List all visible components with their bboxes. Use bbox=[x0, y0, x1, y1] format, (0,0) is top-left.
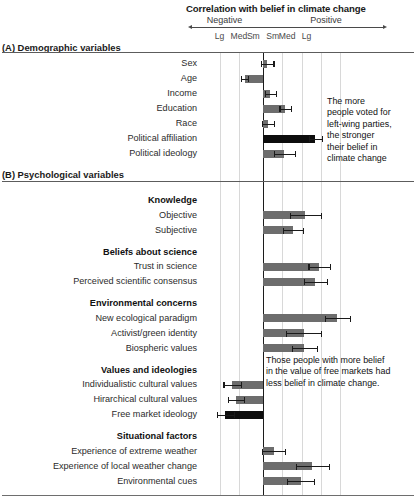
section-rule-a bbox=[2, 52, 414, 53]
error-bar bbox=[265, 94, 276, 95]
error-bar-cap-low bbox=[265, 91, 266, 97]
error-bar-cap-high bbox=[248, 76, 249, 82]
error-bar-cap-low bbox=[296, 464, 297, 470]
error-bar bbox=[283, 230, 302, 231]
row-label: Perceived scientific consensus bbox=[73, 276, 197, 287]
row-label: Individualistic cultural values bbox=[82, 379, 197, 390]
direction-label-positive: Positive bbox=[263, 15, 389, 25]
arrow-left-icon bbox=[188, 25, 192, 29]
group-heading: Environmental concerns bbox=[90, 298, 197, 309]
axis-tick-5: Lg bbox=[293, 31, 319, 41]
error-bar-cap-high bbox=[321, 213, 322, 219]
group-heading: Knowledge bbox=[148, 195, 197, 206]
error-bar-cap-low bbox=[223, 382, 224, 388]
row-label: Biospheric values bbox=[126, 343, 197, 354]
error-bar-cap-high bbox=[327, 279, 328, 285]
error-bar-cap-low bbox=[279, 106, 280, 112]
error-bar-cap-low bbox=[241, 76, 242, 82]
group-heading: Beliefs about science bbox=[103, 247, 197, 258]
error-bar-cap-high bbox=[291, 106, 292, 112]
error-bar-cap-low bbox=[274, 151, 275, 157]
gridline-4 bbox=[321, 53, 322, 495]
row-label: Political ideology bbox=[129, 148, 197, 159]
error-bar bbox=[223, 385, 240, 386]
error-bar bbox=[262, 124, 274, 125]
row-label: Political affiliation bbox=[127, 133, 197, 144]
error-bar-cap-low bbox=[261, 61, 262, 67]
error-bar-cap-low bbox=[325, 316, 326, 322]
section-heading-b: (B) Psychological variables bbox=[2, 169, 124, 180]
error-bar-cap-high bbox=[274, 121, 275, 127]
error-bar bbox=[228, 400, 243, 401]
error-bar-cap-high bbox=[322, 136, 323, 142]
section-rule-b bbox=[2, 181, 414, 182]
error-bar bbox=[296, 466, 329, 467]
error-bar-cap-low bbox=[304, 279, 305, 285]
error-bar bbox=[217, 415, 234, 416]
error-bar bbox=[308, 267, 329, 268]
error-bar-cap-low bbox=[290, 213, 291, 219]
row-label: Free market ideology bbox=[112, 409, 197, 420]
figure-bottom-rule bbox=[2, 495, 414, 496]
group-heading: Values and ideologies bbox=[101, 365, 197, 376]
error-bar-cap-high bbox=[303, 228, 304, 234]
row-label: New ecological paradigm bbox=[95, 313, 197, 324]
chart-title: Correlation with belief in climate chang… bbox=[186, 3, 416, 14]
error-bar-cap-high bbox=[314, 479, 315, 485]
error-bar-cap-high bbox=[244, 397, 245, 403]
error-bar-cap-high bbox=[329, 464, 330, 470]
direction-label-negative: Negative bbox=[186, 15, 263, 25]
error-bar-cap-low bbox=[292, 346, 293, 352]
error-bar-cap-high bbox=[321, 331, 322, 337]
row-label: Hirarchical cultural values bbox=[93, 394, 197, 405]
arrow-right-icon bbox=[383, 25, 387, 29]
error-bar-cap-high bbox=[295, 151, 296, 157]
error-bar-cap-low bbox=[287, 479, 288, 485]
gridline-3 bbox=[302, 53, 303, 495]
error-bar-cap-high bbox=[273, 61, 274, 67]
error-bar-cap-high bbox=[234, 412, 235, 418]
row-label: Objective bbox=[159, 210, 197, 221]
error-bar bbox=[325, 318, 350, 319]
error-bar-cap-high bbox=[317, 346, 318, 352]
row-label: Education bbox=[157, 103, 197, 114]
error-bar bbox=[274, 154, 295, 155]
error-bar bbox=[309, 139, 322, 140]
error-bar bbox=[304, 282, 327, 283]
error-bar-cap-low bbox=[228, 397, 229, 403]
error-bar-cap-low bbox=[262, 121, 263, 127]
row-label: Race bbox=[176, 118, 197, 129]
group-heading: Situational factors bbox=[117, 431, 197, 442]
gridline-0 bbox=[220, 53, 221, 495]
row-label: Sex bbox=[181, 58, 197, 69]
error-bar-cap-low bbox=[308, 264, 309, 270]
error-bar-cap-high bbox=[350, 316, 351, 322]
row-label: Experience of extreme weather bbox=[71, 446, 197, 457]
error-bar bbox=[292, 348, 317, 349]
error-bar bbox=[290, 215, 321, 216]
gridline-2 bbox=[282, 53, 283, 495]
error-bar-cap-low bbox=[286, 331, 287, 337]
gridline-1 bbox=[239, 53, 240, 495]
direction-axis-rule bbox=[192, 27, 383, 28]
row-label: Experience of local weather change bbox=[53, 461, 197, 472]
error-bar-cap-high bbox=[276, 91, 277, 97]
row-label: Trust in science bbox=[134, 261, 197, 272]
error-bar-cap-low bbox=[283, 228, 284, 234]
error-bar-cap-low bbox=[217, 412, 218, 418]
annotation-political-affiliation: The more people voted for left-wing part… bbox=[327, 96, 416, 164]
error-bar bbox=[286, 333, 321, 334]
row-label: Income bbox=[167, 88, 197, 99]
error-bar bbox=[287, 481, 314, 482]
error-bar-cap-high bbox=[241, 382, 242, 388]
error-bar-cap-low bbox=[309, 136, 310, 142]
annotation-free-market: Those people with more belief in the val… bbox=[266, 355, 416, 389]
row-label: Age bbox=[181, 73, 197, 84]
row-label: Subjective bbox=[155, 225, 197, 236]
row-label: Environmental cues bbox=[117, 476, 197, 487]
error-bar bbox=[279, 109, 291, 110]
error-bar bbox=[261, 64, 273, 65]
error-bar-cap-high bbox=[330, 264, 331, 270]
bar bbox=[263, 135, 315, 143]
